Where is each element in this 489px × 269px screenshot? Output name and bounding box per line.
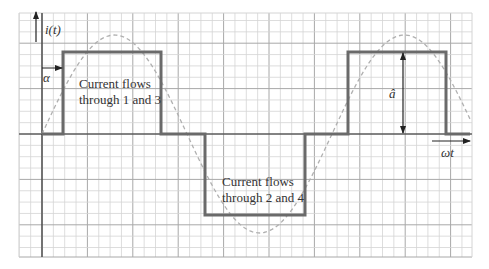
negative-annotation-line1: Current flows [222,174,294,189]
amplitude-label: â [389,86,396,101]
grid [19,13,472,257]
positive-annotation-line1: Current flows [79,76,151,91]
negative-annotation-line2: through 2 and 4 [222,190,304,205]
positive-annotation-line2: through 1 and 3 [79,92,161,107]
x-axis-label: ωt [441,145,454,160]
alpha-label: α [43,70,50,85]
waveform-diagram [0,0,489,269]
y-axis-label: i(t) [45,22,61,37]
